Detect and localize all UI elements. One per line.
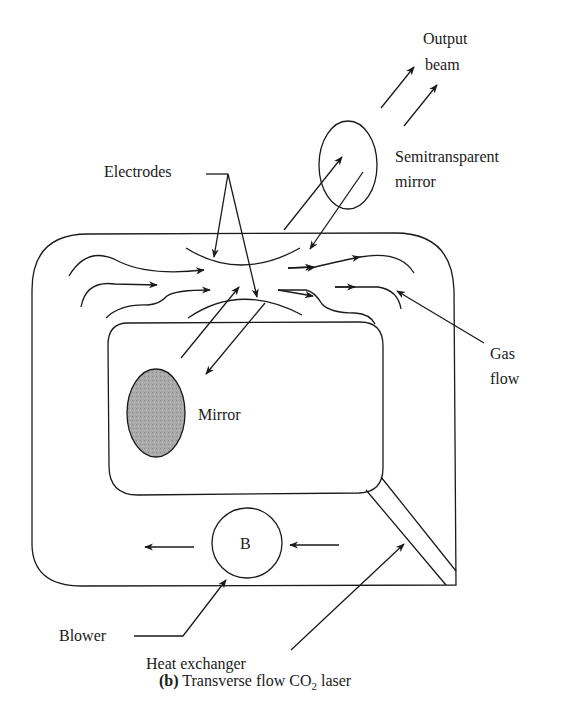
semitransparent-mirror <box>319 121 377 209</box>
figure-caption: (b) Transverse flow CO2 laser <box>159 672 351 692</box>
label-output-beam-1: Output <box>423 27 467 51</box>
caption-text: Transverse flow CO <box>179 672 312 689</box>
beam-to-semitransparent <box>284 157 342 230</box>
label-mirror: Mirror <box>198 403 241 427</box>
caption-text-after: laser <box>317 672 351 689</box>
beam-from-semitransparent <box>310 172 363 249</box>
electrode-top <box>186 248 300 265</box>
label-output-beam-2: beam <box>425 53 460 77</box>
output-beam-arrow-2 <box>404 85 437 126</box>
heat-exchanger <box>366 477 456 585</box>
blower-leader <box>134 580 226 636</box>
label-gas-flow-2: flow <box>490 367 519 391</box>
label-blower-symbol: B <box>240 532 251 556</box>
label-electrodes: Electrodes <box>104 160 172 184</box>
heat-exchanger-leader <box>291 544 404 650</box>
gas-flow-streamlines-left <box>69 256 210 318</box>
label-gas-flow-1: Gas <box>490 342 515 366</box>
caption-tag: (b) <box>159 672 179 689</box>
co2-laser-diagram <box>0 0 565 713</box>
label-blower: Blower <box>59 624 106 648</box>
gas-flow-leader <box>397 291 484 343</box>
label-semitransparent-1: Semitransparent <box>395 145 499 169</box>
beam-to-mirror <box>206 303 265 374</box>
electrodes-leader <box>206 174 257 297</box>
electrode-bottom <box>188 299 302 318</box>
label-semitransparent-2: mirror <box>395 170 436 194</box>
output-beam-arrow-1 <box>381 67 414 108</box>
back-mirror <box>127 369 185 457</box>
